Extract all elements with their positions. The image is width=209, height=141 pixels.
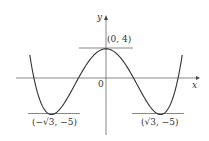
- min-left-label: (−√3, −5): [32, 117, 77, 127]
- origin-label: 0: [98, 79, 104, 89]
- min-right-label: (√3, −5): [141, 117, 178, 127]
- max-point-label: (0, 4): [107, 34, 131, 44]
- y-axis-arrow-icon: [104, 15, 108, 20]
- y-axis-label: y: [97, 12, 102, 22]
- function-graph: y x 0 (0, 4) (−√3, −5) (√3, −5): [0, 0, 209, 141]
- x-axis-label: x: [192, 80, 197, 90]
